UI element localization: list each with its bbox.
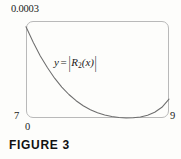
equation-close-bar: | (95, 53, 97, 72)
equation-y: y (54, 56, 59, 68)
curve-r2-absolute (26, 27, 169, 118)
equation-open-bar: | (69, 53, 71, 72)
x-axis-max-label: 9 (170, 110, 175, 121)
y-axis-min-label: 7 (14, 110, 19, 121)
y-axis-max-label: 0.0003 (11, 3, 39, 14)
plot-curve-area (26, 21, 169, 118)
curve-equation-label: y=|R2(x)| (54, 56, 97, 70)
equation-argument: (x) (82, 56, 94, 68)
figure-container: 0.0003 y=|R2(x)| 7 0 9 FIGURE 3 (0, 0, 181, 159)
figure-caption: FIGURE 3 (9, 138, 70, 152)
equation-equals: = (60, 56, 66, 68)
x-axis-min-label: 0 (25, 121, 30, 132)
